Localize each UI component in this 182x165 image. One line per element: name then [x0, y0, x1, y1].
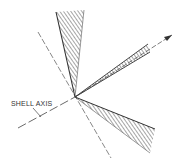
shell-axis-diagram	[0, 0, 182, 165]
arrowhead-icon	[164, 35, 172, 41]
right-wedge-upper-edge	[75, 44, 148, 97]
shell-axis-label: SHELL AXIS	[11, 100, 52, 107]
label-leader-line	[33, 108, 41, 117]
right-wedge-lower-edge	[75, 52, 150, 97]
lower-wedge	[75, 97, 155, 153]
direction-arrow-line	[75, 35, 172, 97]
